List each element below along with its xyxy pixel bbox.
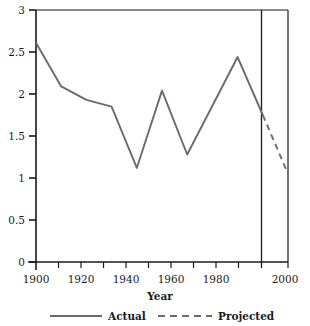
x-axis-tick-labels: 1900 1920 1940 1960 1980 2000: [23, 273, 299, 285]
y-axis-ticks: [29, 10, 36, 262]
x-axis-title: Year: [146, 290, 173, 302]
chart-svg: 0 0.5 1 1.5 2 2.5 3 1900 1920 1940: [0, 0, 310, 326]
y-tick-label-1: 1: [18, 172, 25, 184]
x-tick-label-1980: 1980: [203, 273, 230, 285]
plot-frame: [28, 10, 288, 262]
x-tick-label-1960: 1960: [158, 273, 185, 285]
y-tick-label-3: 3: [18, 4, 25, 16]
x-tick-label-1900: 1900: [23, 273, 50, 285]
legend-label-actual: Actual: [107, 310, 146, 322]
series-line-actual: [36, 43, 263, 168]
line-chart: 0 0.5 1 1.5 2 2.5 3 1900 1920 1940: [0, 0, 310, 326]
x-axis-ticks: [36, 262, 288, 270]
series-line-projected: [263, 115, 288, 174]
y-tick-label-2-5: 2.5: [8, 46, 25, 58]
y-tick-label-0-5: 0.5: [8, 214, 25, 226]
legend-label-projected: Projected: [218, 310, 275, 322]
x-tick-label-1940: 1940: [113, 273, 140, 285]
chart-legend: Actual Projected: [50, 310, 275, 322]
x-tick-label-1920: 1920: [68, 273, 95, 285]
y-tick-label-0: 0: [18, 256, 25, 268]
y-tick-label-2: 2: [18, 88, 25, 100]
y-tick-label-1-5: 1.5: [8, 130, 25, 142]
x-tick-label-2000: 2000: [272, 273, 299, 285]
y-axis-tick-labels: 0 0.5 1 1.5 2 2.5 3: [8, 4, 25, 268]
